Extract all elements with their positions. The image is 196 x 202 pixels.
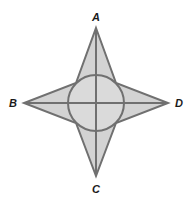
label-d: D: [175, 97, 183, 109]
label-b: B: [9, 97, 17, 109]
star-diagram: A B C D: [0, 0, 196, 202]
label-a: A: [91, 11, 100, 23]
label-c: C: [92, 183, 101, 195]
